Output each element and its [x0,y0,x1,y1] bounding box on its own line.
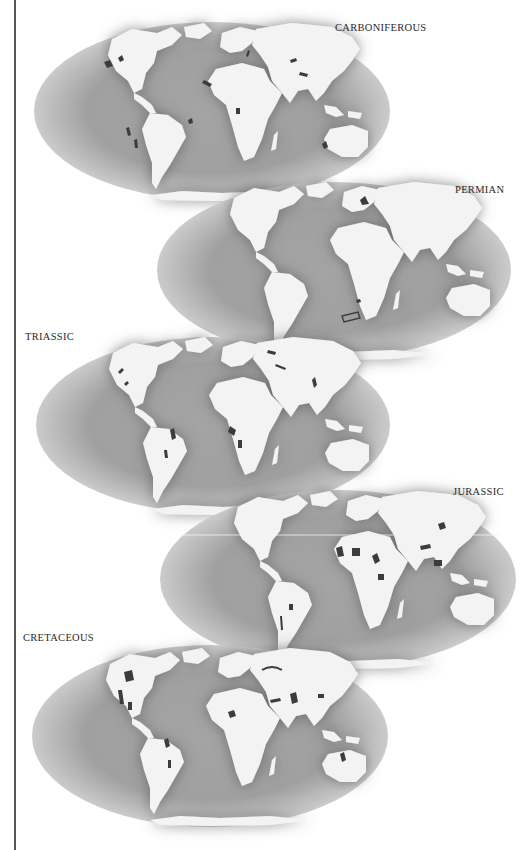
map-carboniferous [34,22,390,201]
map-permian [157,182,511,360]
label-carboniferous: CARBONIFEROUS [335,22,426,34]
label-jurassic: JURASSIC [453,486,504,498]
map-cretaceous [32,645,388,827]
world-maps-figure [0,0,530,850]
label-cretaceous: CRETACEOUS [23,632,94,644]
map-jurassic [160,490,516,669]
label-triassic: TRIASSIC [25,331,74,343]
label-permian: PERMIAN [455,184,504,196]
map-triassic [36,337,390,515]
